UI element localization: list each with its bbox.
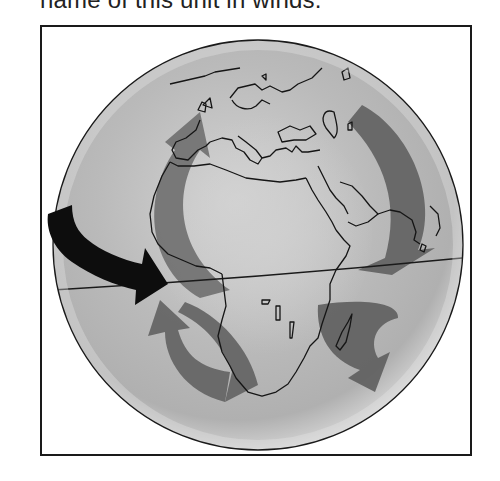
globe-diagram <box>0 0 500 481</box>
